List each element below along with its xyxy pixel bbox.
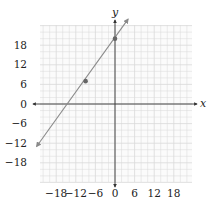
y-tick-label: 12 [14, 58, 27, 70]
data-point [113, 36, 118, 41]
x-tick-label: −6 [88, 187, 104, 199]
x-axis-label: x [200, 97, 207, 110]
x-tick-label: 18 [167, 187, 180, 199]
y-tick-label: 6 [20, 78, 27, 90]
y-axis-label: y [111, 6, 119, 19]
y-tick-label: −12 [5, 137, 27, 149]
y-tick-label: 0 [20, 98, 27, 110]
y-tick-label: −18 [5, 156, 27, 168]
coordinate-plane-chart: xy−18−12−6061218181260−6−12−18 [0, 0, 209, 206]
y-tick-label: 18 [14, 39, 27, 51]
x-tick-label: 6 [131, 187, 138, 199]
data-point [83, 79, 88, 84]
y-tick-label: −6 [12, 117, 28, 129]
x-tick-label: 12 [148, 187, 161, 199]
x-tick-label: −12 [65, 187, 87, 199]
x-tick-label: 0 [112, 187, 119, 199]
